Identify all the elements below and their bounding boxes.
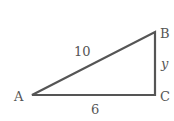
vertex-label-b: B — [160, 26, 170, 41]
vertex-label-a: A — [13, 89, 24, 104]
side-label-base: 6 — [91, 102, 99, 117]
side-label-hypotenuse: 10 — [74, 44, 91, 59]
side-label-leg: y — [160, 56, 169, 71]
triangle-shape — [32, 32, 155, 95]
vertex-label-c: C — [160, 89, 170, 104]
triangle-diagram: A B C 10 6 y — [0, 0, 174, 121]
